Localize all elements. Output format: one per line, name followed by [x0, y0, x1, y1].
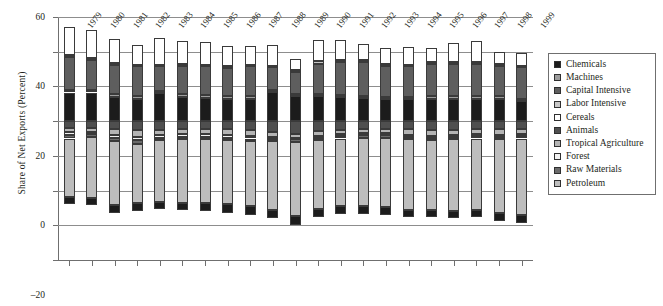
segment-machines — [154, 91, 165, 94]
segment-chemicals-net-import- — [448, 211, 459, 219]
segment-machines — [177, 94, 188, 97]
segment-machines — [222, 96, 233, 99]
legend-item-cereals[interactable]: Cereals — [554, 111, 651, 124]
bar-1991 — [335, 17, 346, 260]
legend-swatch-icon — [554, 167, 561, 174]
segment-machines — [358, 96, 369, 98]
segment-animals — [426, 121, 437, 130]
segment-chemicals-net-import- — [154, 202, 165, 209]
legend-item-chemicals[interactable]: Chemicals — [554, 58, 651, 71]
segment-chemicals — [290, 96, 301, 121]
segment-cereals — [494, 52, 505, 64]
legend-swatch-icon — [554, 101, 561, 108]
segment-chemicals — [426, 99, 437, 122]
segment-machines — [64, 90, 75, 93]
legend-item-forest[interactable]: Forest — [554, 150, 651, 163]
y-axis-tick-label: 40 — [36, 81, 46, 91]
segment-animals — [222, 121, 233, 129]
y-axis-tick-label: 60 — [36, 12, 46, 22]
segment-machines — [494, 96, 505, 99]
segment-chemicals — [245, 99, 256, 122]
bar-1987 — [245, 17, 256, 260]
legend-item-labor-intensive[interactable]: Labor Intensive — [554, 98, 651, 111]
legend-label: Labor Intensive — [566, 99, 626, 109]
x-axis-tick — [386, 260, 387, 266]
segment-cereals — [426, 48, 437, 62]
segment-cereals — [132, 45, 143, 65]
bar-1997 — [471, 17, 482, 260]
x-axis-line — [58, 260, 533, 261]
segment-labor-intensive — [516, 66, 527, 68]
legend-swatch-icon — [554, 61, 561, 68]
segment-capital-intensive — [64, 57, 75, 90]
x-axis-tick — [115, 260, 116, 266]
segment-labor-intensive — [86, 58, 97, 60]
segment-chemicals-net-import- — [494, 213, 505, 221]
legend-swatch-icon — [554, 153, 561, 160]
segment-animals — [154, 121, 165, 130]
segment-animals — [403, 121, 414, 129]
segment-labor-intensive — [222, 66, 233, 68]
segment-machines — [109, 94, 120, 97]
segment-machines — [471, 96, 482, 99]
x-axis-tick — [499, 260, 500, 266]
segment-animals — [471, 121, 482, 129]
x-axis-tick — [296, 260, 297, 266]
legend-item-machines[interactable]: Machines — [554, 71, 651, 84]
segment-labor-intensive — [426, 62, 437, 64]
segment-cereals — [267, 45, 278, 66]
bar-1981 — [109, 17, 120, 260]
segment-animals — [335, 121, 346, 130]
segment-cereals — [64, 27, 75, 55]
segment-petroleum — [358, 138, 369, 207]
bar-1980 — [86, 17, 97, 260]
y-axis-tick-label: 20 — [36, 151, 46, 161]
segment-capital-intensive — [267, 67, 278, 90]
y-axis-tick-label: –20 — [31, 290, 45, 300]
segment-chemicals — [403, 99, 414, 121]
segment-cereals — [313, 40, 324, 62]
segment-chemicals — [471, 99, 482, 122]
segment-petroleum — [448, 139, 459, 210]
bar-1982 — [132, 17, 143, 260]
segment-capital-intensive — [516, 67, 527, 98]
legend-item-raw-materials[interactable]: Raw Materials — [554, 164, 651, 177]
segment-labor-intensive — [245, 65, 256, 67]
legend-item-capital-intensive[interactable]: Capital Intensive — [554, 84, 651, 97]
segment-chemicals-net-import- — [267, 210, 278, 219]
segment-capital-intensive — [358, 62, 369, 96]
segment-animals — [245, 121, 256, 130]
segment-petroleum — [64, 139, 75, 197]
segment-petroleum — [154, 140, 165, 202]
segment-capital-intensive — [494, 66, 505, 96]
segment-animals — [290, 121, 301, 134]
segment-labor-intensive — [380, 64, 391, 66]
legend-item-tropical-agriculture[interactable]: Tropical Agriculture — [554, 137, 651, 150]
bar-1988 — [267, 17, 278, 260]
segment-chemicals-net-import- — [426, 210, 437, 218]
segment-labor-intensive — [335, 60, 346, 62]
legend-item-petroleum[interactable]: Petroleum — [554, 177, 651, 190]
segment-capital-intensive — [426, 64, 437, 96]
legend-swatch-icon — [554, 87, 561, 94]
x-axis-tick — [318, 260, 319, 266]
x-axis-tick — [273, 260, 274, 266]
segment-chemicals-net-import- — [200, 203, 211, 211]
x-axis-tick — [69, 260, 70, 266]
segment-chemicals — [335, 97, 346, 121]
segment-cereals — [516, 53, 527, 65]
legend-item-animals[interactable]: Animals — [554, 124, 651, 137]
stacked-bar-chart: Share of Net Exports (Percent) 6040200–2… — [0, 0, 663, 306]
segment-machines — [313, 94, 324, 96]
segment-chemicals-net-import- — [335, 206, 346, 214]
segment-chemicals — [494, 99, 505, 122]
segment-machines — [516, 99, 527, 102]
segment-animals — [313, 121, 324, 131]
bar-1999 — [516, 17, 527, 260]
segment-labor-intensive — [200, 65, 211, 67]
segment-cereals — [290, 59, 301, 70]
legend-swatch-icon — [554, 114, 561, 121]
segment-cereals — [335, 40, 346, 61]
x-axis-label-1999: 1999 — [538, 10, 557, 30]
bar-1996 — [448, 17, 459, 260]
